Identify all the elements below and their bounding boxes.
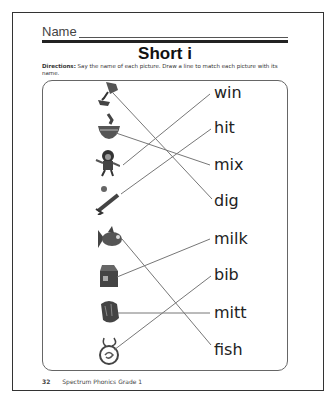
winner-child-icon: [94, 148, 120, 178]
fish-icon: [96, 224, 122, 254]
matching-box: [42, 80, 288, 371]
baseball-mitt-icon: [97, 298, 123, 328]
mixing-bowl-icon: [96, 112, 122, 142]
word-mix: mix: [214, 156, 244, 174]
page-number: 32: [42, 378, 50, 385]
bat-hit-icon: [94, 185, 120, 215]
word-mitt: mitt: [214, 304, 247, 322]
book-title: Spectrum Phonics Grade 1: [62, 378, 142, 385]
directions: Directions: Say the name of each picture…: [42, 63, 292, 76]
word-hit: hit: [214, 119, 235, 137]
trowel-dig-icon: [96, 80, 122, 110]
word-fish: fish: [214, 341, 243, 359]
directions-label: Directions:: [42, 63, 76, 69]
page-title: Short i: [42, 44, 288, 64]
milk-carton-icon: [96, 261, 122, 291]
word-dig: dig: [214, 192, 239, 210]
word-bib: bib: [214, 266, 239, 284]
name-label: Name: [42, 24, 77, 39]
word-milk: milk: [214, 230, 248, 248]
word-win: win: [214, 84, 242, 102]
header-rule: [42, 40, 288, 43]
bib-icon: [96, 336, 122, 366]
page-footer: 32 Spectrum Phonics Grade 1: [42, 378, 142, 385]
directions-text: Say the name of each picture. Draw a lin…: [42, 63, 278, 76]
name-field-row: Name: [42, 24, 288, 40]
name-input-line[interactable]: [79, 37, 288, 38]
